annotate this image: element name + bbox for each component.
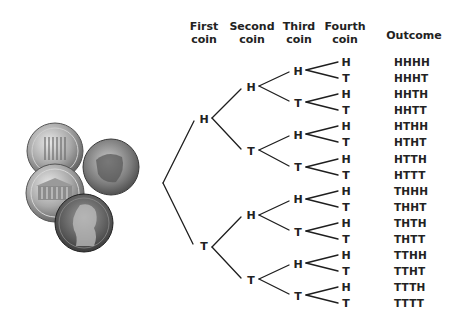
outcome-item: THHH: [394, 186, 428, 197]
node-l4: H: [341, 57, 350, 68]
header-outcome-label: Outcome: [383, 29, 445, 42]
node-l3: H: [293, 66, 302, 77]
node-l4: H: [341, 282, 350, 293]
outcome-item: THTH: [394, 218, 427, 229]
node-l3: T: [294, 162, 302, 173]
node-l4: T: [342, 170, 350, 181]
node-l3: H: [293, 194, 302, 205]
header-second-line1: Second: [226, 20, 278, 33]
node-l4: T: [342, 137, 350, 148]
node-l4: T: [342, 105, 350, 116]
node-l4: H: [341, 121, 350, 132]
node-l4: H: [341, 89, 350, 100]
header-third-coin: Third coin: [278, 20, 320, 46]
outcome-item: HTTT: [394, 170, 426, 181]
node-l4: T: [342, 234, 350, 245]
header-second-coin: Second coin: [226, 20, 278, 46]
header-third-line2: coin: [278, 33, 320, 46]
header-first-line1: First: [183, 20, 225, 33]
node-l3: T: [294, 227, 302, 238]
outcome-item: THHT: [394, 202, 427, 213]
outcome-item: HTHH: [394, 121, 428, 132]
header-first-coin: First coin: [183, 20, 225, 46]
header-fourth-coin: Fourth coin: [320, 20, 370, 46]
header-outcome: Outcome: [383, 29, 445, 42]
outcome-item: THTT: [394, 234, 425, 245]
node-l4: H: [341, 250, 350, 261]
outcome-item: TTTT: [394, 298, 424, 309]
node-l2: T: [247, 146, 255, 157]
node-l2: H: [246, 210, 255, 221]
outcome-item: HHHH: [394, 57, 430, 68]
node-l3: T: [294, 98, 302, 109]
tree-branches: [0, 0, 461, 328]
node-l1: H: [199, 114, 208, 125]
node-l4: T: [342, 266, 350, 277]
node-l4: T: [342, 202, 350, 213]
node-l3: H: [293, 259, 302, 270]
node-l4: H: [341, 186, 350, 197]
header-second-line2: coin: [226, 33, 278, 46]
node-l4: T: [342, 298, 350, 309]
outcome-item: HHTT: [394, 105, 427, 116]
node-l4: T: [342, 73, 350, 84]
outcome-item: HHHT: [394, 73, 428, 84]
outcome-item: TTTH: [394, 282, 426, 293]
node-l4: H: [341, 154, 350, 165]
outcome-item: TTHH: [394, 250, 427, 261]
tree-diagram-figure: First coin Second coin Third coin Fourth…: [0, 0, 461, 328]
header-first-line2: coin: [183, 33, 225, 46]
outcome-item: HTHT: [394, 137, 427, 148]
header-fourth-line1: Fourth: [320, 20, 370, 33]
header-fourth-line2: coin: [320, 33, 370, 46]
node-l2: T: [247, 275, 255, 286]
node-l1: T: [200, 241, 208, 252]
outcome-item: HTTH: [394, 154, 427, 165]
outcome-item: TTHT: [394, 266, 425, 277]
node-l3: T: [294, 291, 302, 302]
outcome-item: HHTH: [394, 89, 428, 100]
node-l2: H: [246, 82, 255, 93]
node-l4: H: [341, 218, 350, 229]
header-third-line1: Third: [278, 20, 320, 33]
node-l3: H: [293, 130, 302, 141]
